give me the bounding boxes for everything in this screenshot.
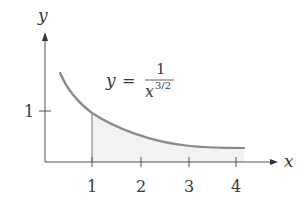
- x-axis-arrow-icon: [270, 159, 278, 165]
- y-tick-label-1: 1: [24, 102, 34, 121]
- x-tick-label-2: 2: [136, 177, 146, 196]
- equation-label: y = 1 x 3/2: [105, 60, 174, 101]
- function-graph: y x 1 1 2 3 4 y = 1 x 3/2: [0, 0, 305, 204]
- equation-numerator: 1: [156, 60, 166, 78]
- x-axis-label: x: [284, 151, 294, 171]
- y-axis-arrow-icon: [42, 32, 48, 41]
- x-tick-label-1: 1: [87, 177, 97, 196]
- equation-denominator-exp: 3/2: [155, 80, 171, 91]
- y-axis-label: y: [37, 5, 48, 25]
- x-tick-label-4: 4: [231, 177, 241, 196]
- x-tick-label-3: 3: [184, 177, 194, 196]
- equation-lhs: y: [105, 70, 116, 90]
- shaded-region: [92, 113, 244, 162]
- equation-equals: =: [122, 71, 135, 90]
- equation-denominator-base: x: [145, 82, 154, 101]
